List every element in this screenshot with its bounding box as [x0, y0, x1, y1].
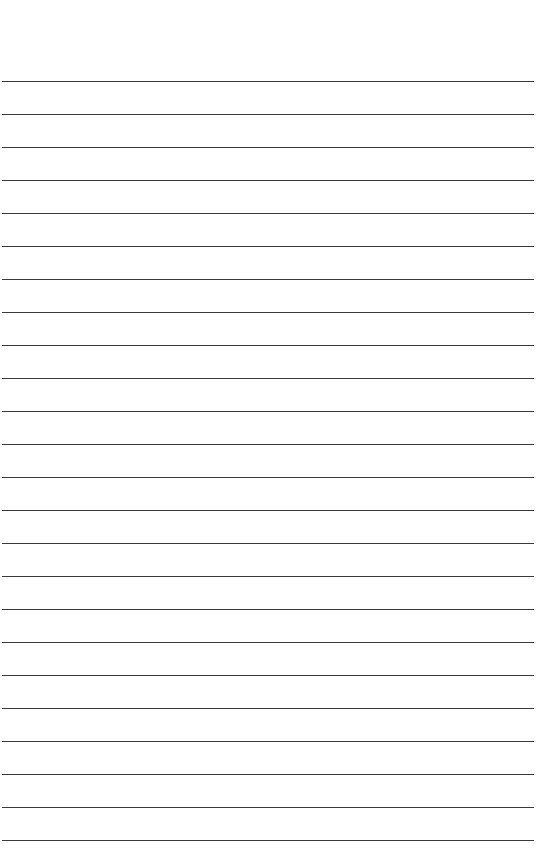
ruled-line	[2, 81, 534, 82]
ruled-line	[2, 774, 534, 775]
ruled-line	[2, 213, 534, 214]
ruled-line	[2, 180, 534, 181]
ruled-line	[2, 807, 534, 808]
ruled-line	[2, 147, 534, 148]
ruled-line	[2, 609, 534, 610]
ruled-line	[2, 312, 534, 313]
ruled-paper-page	[0, 0, 539, 864]
ruled-line	[2, 477, 534, 478]
ruled-line	[2, 345, 534, 346]
ruled-line	[2, 840, 534, 841]
ruled-line	[2, 510, 534, 511]
ruled-line	[2, 444, 534, 445]
ruled-line	[2, 543, 534, 544]
ruled-line	[2, 675, 534, 676]
ruled-line	[2, 576, 534, 577]
ruled-line	[2, 411, 534, 412]
ruled-line	[2, 642, 534, 643]
ruled-line	[2, 378, 534, 379]
ruled-line	[2, 741, 534, 742]
ruled-line	[2, 708, 534, 709]
ruled-line	[2, 279, 534, 280]
ruled-line	[2, 114, 534, 115]
ruled-line	[2, 246, 534, 247]
